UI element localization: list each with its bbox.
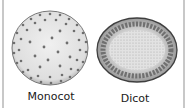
dicot-cross-section	[97, 18, 177, 82]
monocot-label: Monocot	[20, 90, 82, 103]
monocot-cross-section	[12, 11, 88, 85]
dicot-label: Dicot	[104, 92, 166, 105]
